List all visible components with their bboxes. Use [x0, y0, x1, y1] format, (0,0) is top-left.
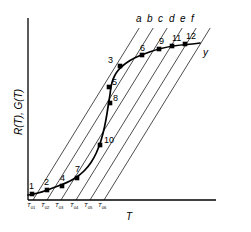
data-point-6 [140, 53, 145, 58]
point-label-5: 5 [112, 78, 117, 87]
load-line-label-a: a [136, 14, 142, 24]
point-label-3: 3 [108, 56, 113, 65]
x-axis-label: T [126, 212, 132, 222]
x-tick-subscript: 03 [59, 205, 64, 210]
x-tick-label-T06: T06 [98, 202, 106, 210]
data-point-7 [75, 176, 80, 181]
point-label-2: 2 [44, 178, 49, 187]
data-point-5 [107, 85, 112, 90]
x-tick-label-T05: T05 [84, 202, 92, 210]
load-line-label-b: b [147, 14, 153, 24]
point-label-6: 6 [140, 44, 145, 53]
load-line-f [104, 28, 210, 200]
chart-canvas [0, 0, 251, 232]
curve-label-y: y [203, 48, 208, 58]
load-line-d [76, 28, 182, 200]
data-point-11 [170, 44, 175, 49]
point-label-11: 11 [172, 34, 181, 43]
load-line-a [33, 28, 139, 200]
data-point-8 [108, 101, 113, 106]
point-label-10: 10 [104, 136, 114, 145]
point-label-1: 1 [29, 182, 34, 191]
axes-group [28, 18, 216, 200]
point-label-4: 4 [60, 174, 65, 183]
data-point-1 [30, 192, 35, 197]
x-tick-label-T02: T02 [41, 202, 49, 210]
load-line-label-d: d [169, 14, 175, 24]
x-tick-subscript: 01 [31, 205, 36, 210]
load-line-label-e: e [180, 14, 186, 24]
x-tick-label-T04: T04 [70, 202, 78, 210]
data-point-3 [118, 64, 123, 69]
point-label-9: 9 [159, 37, 164, 46]
load-line-c [61, 28, 167, 200]
y-axis-label: R(T), G(T) [14, 89, 24, 135]
x-tick-subscript: 04 [74, 205, 79, 210]
x-tick-subscript: 06 [102, 205, 107, 210]
load-line-label-f: f [191, 14, 194, 24]
chart-figure: 124710853691112abcdefyTR(T), G(T)T01T02T… [0, 0, 251, 232]
data-point-10 [98, 143, 103, 148]
characteristic-curve-y [28, 43, 200, 195]
x-tick-subscript: 05 [88, 205, 93, 210]
data-point-2 [45, 188, 50, 193]
data-point-9 [157, 47, 162, 52]
data-point-4 [60, 184, 65, 189]
point-label-7: 7 [75, 165, 80, 174]
x-tick-label-T01: T01 [27, 202, 35, 210]
x-tick-label-T03: T03 [55, 202, 63, 210]
x-tick-subscript: 02 [45, 205, 50, 210]
load-line-label-c: c [158, 14, 163, 24]
data-point-12 [183, 42, 188, 47]
point-label-8: 8 [113, 94, 118, 103]
point-label-12: 12 [186, 32, 196, 41]
curve-group [28, 43, 200, 195]
